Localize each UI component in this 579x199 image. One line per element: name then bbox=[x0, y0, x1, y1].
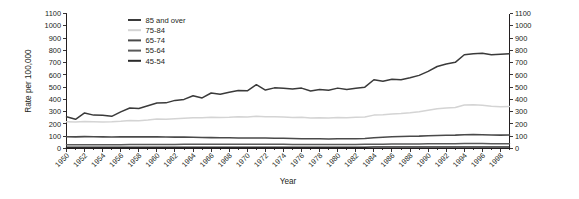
y-axis-right-tick-label: 700 bbox=[515, 58, 527, 67]
y-axis-right-tick-label: 200 bbox=[515, 120, 527, 129]
y-axis-right-tick-label: 300 bbox=[515, 107, 527, 116]
y-axis-tick-label: 400 bbox=[49, 95, 61, 104]
y-axis-right-tick-label: 0 bbox=[515, 144, 519, 153]
legend-label: 55-64 bbox=[146, 46, 165, 55]
y-axis-tick-label: 800 bbox=[49, 46, 61, 55]
y-axis-right-tick-label: 600 bbox=[515, 71, 527, 80]
y-axis-tick-label: 300 bbox=[49, 107, 61, 116]
y-axis-right-tick-label: 800 bbox=[515, 46, 527, 55]
y-axis-right-tick-label: 900 bbox=[515, 34, 527, 43]
y-axis-right-tick-label: 1100 bbox=[515, 9, 531, 18]
y-axis-right-tick-label: 500 bbox=[515, 83, 527, 92]
y-axis-tick-label: 500 bbox=[49, 83, 61, 92]
legend-label: 45-54 bbox=[146, 57, 165, 66]
y-axis-right-tick-label: 400 bbox=[515, 95, 527, 104]
y-axis-tick-label: 1100 bbox=[45, 9, 61, 18]
y-axis-tick-label: 900 bbox=[49, 34, 61, 43]
y-axis-right-tick-label: 1000 bbox=[515, 21, 531, 30]
y-axis-tick-label: 1000 bbox=[45, 21, 61, 30]
x-axis-title: Year bbox=[280, 177, 297, 186]
y-axis-title: Rate per 100,000 bbox=[24, 49, 33, 113]
y-axis-tick-label: 0 bbox=[57, 144, 61, 153]
y-axis-tick-label: 700 bbox=[49, 58, 61, 67]
y-axis-right-tick-label: 100 bbox=[515, 132, 527, 141]
y-axis-tick-label: 100 bbox=[49, 132, 61, 141]
legend-label: 85 and over bbox=[146, 16, 187, 25]
legend-label: 65-74 bbox=[146, 36, 165, 45]
y-axis-tick-label: 200 bbox=[49, 120, 61, 129]
chart-container: 0010010020020030030040040050050060060070… bbox=[0, 0, 579, 199]
legend-label: 75-84 bbox=[146, 26, 165, 35]
y-axis-tick-label: 600 bbox=[49, 71, 61, 80]
line-chart: 0010010020020030030040040050050060060070… bbox=[0, 0, 579, 199]
